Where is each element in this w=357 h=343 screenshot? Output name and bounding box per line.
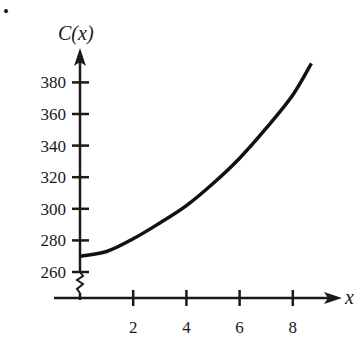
cost-curve	[80, 63, 311, 256]
x-axis: x	[54, 286, 354, 308]
axis-break-icon	[77, 272, 83, 293]
cost-function-chart: • C(x) 260280300320340360380 x 2468	[0, 0, 357, 343]
y-tick-label: 340	[41, 137, 67, 156]
y-ticks: 260280300320340360380	[41, 73, 90, 282]
x-tick-label: 2	[129, 318, 138, 337]
y-tick-label: 280	[41, 231, 67, 250]
y-tick-label: 380	[41, 73, 67, 92]
x-tick-label: 6	[235, 318, 244, 337]
y-axis-title: C(x)	[58, 22, 94, 45]
y-tick-label: 260	[41, 263, 67, 282]
x-tick-label: 8	[289, 318, 298, 337]
x-tick-label: 4	[182, 318, 191, 337]
y-tick-label: 320	[41, 168, 67, 187]
x-axis-title: x	[344, 286, 354, 308]
y-tick-label: 300	[41, 200, 67, 219]
y-axis: C(x)	[58, 22, 94, 300]
bullet-marker: •	[3, 2, 9, 21]
y-tick-label: 360	[41, 105, 67, 124]
